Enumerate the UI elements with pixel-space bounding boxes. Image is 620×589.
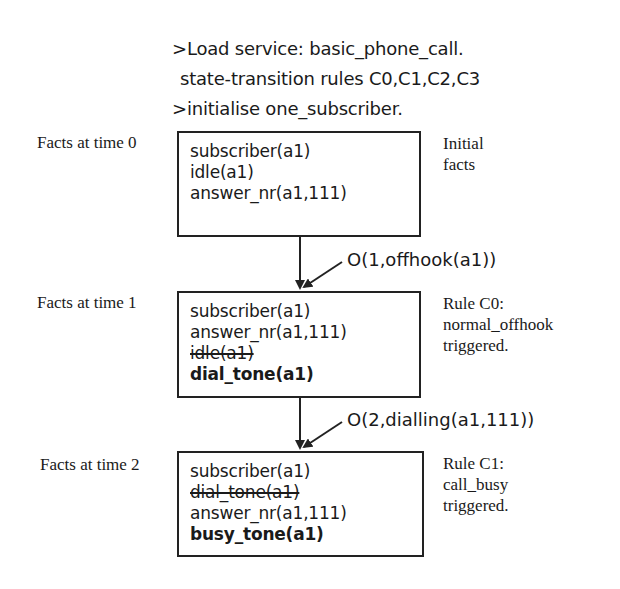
fact-subscriber: subscriber(a1)	[190, 301, 419, 322]
fact-busy-tone-added: busy_tone(a1)	[190, 524, 422, 545]
event-arrow-0-1	[304, 262, 342, 287]
fact-subscriber: subscriber(a1)	[190, 461, 422, 482]
fact-dial-tone-removed: dial_tone(a1)	[190, 482, 422, 503]
fact-idle-removed: idle(a1)	[190, 343, 419, 364]
fact-answer-nr: answer_nr(a1,111)	[190, 503, 422, 524]
fact-idle: idle(a1)	[190, 162, 419, 183]
fact-dial-tone-added: dial_tone(a1)	[190, 364, 419, 385]
facts-box-time-1: subscriber(a1) answer_nr(a1,111) idle(a1…	[177, 291, 421, 398]
note-rule-c1: Rule C1: call_busy triggered.	[443, 453, 509, 516]
event-arrow-1-2	[304, 422, 342, 447]
fact-answer-nr: answer_nr(a1,111)	[190, 183, 419, 204]
state-label-time-1: Facts at time 1	[37, 293, 137, 313]
state-label-time-0: Facts at time 0	[37, 133, 137, 153]
facts-box-time-0: subscriber(a1) idle(a1) answer_nr(a1,111…	[177, 131, 421, 237]
note-initial-facts: Initial facts	[443, 133, 484, 175]
event-label-offhook: O(1,offhook(a1))	[347, 249, 496, 270]
fact-subscriber: subscriber(a1)	[190, 141, 419, 162]
note-rule-c0: Rule C0: normal_offhook triggered.	[443, 293, 553, 356]
event-label-dialling: O(2,dialling(a1,111))	[347, 409, 534, 430]
facts-box-time-2: subscriber(a1) dial_tone(a1) answer_nr(a…	[177, 451, 424, 557]
state-label-time-2: Facts at time 2	[40, 455, 140, 475]
fact-answer-nr: answer_nr(a1,111)	[190, 322, 419, 343]
